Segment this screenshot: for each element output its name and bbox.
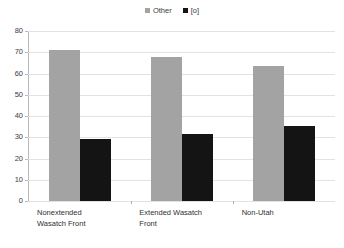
gridline <box>28 201 335 202</box>
x-axis-category-tick <box>233 201 234 204</box>
y-axis-tick-label: 10 <box>15 176 23 184</box>
y-axis-tick-label: 70 <box>15 48 23 56</box>
y-axis-tick-label: 0 <box>19 197 23 205</box>
bar-other[interactable] <box>253 66 284 201</box>
bar-schwa[interactable] <box>284 126 315 201</box>
y-axis-tick <box>25 180 28 181</box>
x-axis-category-label: Extended Wasatch Front <box>139 208 211 229</box>
y-axis-tick-label: 30 <box>15 133 23 141</box>
x-axis-category-label-cell: Nonextended Wasatch Front <box>29 208 131 229</box>
x-axis-category-label: Non-Utah <box>242 208 314 219</box>
bar-group <box>233 31 335 201</box>
x-axis-category-label-cell: Non-Utah <box>234 208 336 229</box>
y-axis-tick-label: 80 <box>15 27 23 35</box>
legend-swatch-other-icon <box>145 8 150 13</box>
y-axis-tick-label: 50 <box>15 91 23 99</box>
x-axis-category-label: Nonextended Wasatch Front <box>37 208 109 229</box>
y-axis-tick-label: 40 <box>15 112 23 120</box>
x-axis-labels: Nonextended Wasatch FrontExtended Wasatc… <box>29 208 336 229</box>
bar-chart: Other [o] 80706050403020100 Nonextended … <box>0 0 344 248</box>
bar-other[interactable] <box>49 50 80 201</box>
legend-item-schwa[interactable]: [o] <box>183 6 199 15</box>
y-axis-tick <box>25 52 28 53</box>
y-axis-tick <box>25 31 28 32</box>
bar-group <box>29 31 131 201</box>
y-axis-tick-label: 60 <box>15 70 23 78</box>
y-axis-tick-label: 20 <box>15 155 23 163</box>
legend-label-schwa: [o] <box>191 6 199 15</box>
x-axis-category-label-cell: Extended Wasatch Front <box>131 208 233 229</box>
y-axis-tick <box>25 201 28 202</box>
plot-area: 80706050403020100 <box>28 31 335 202</box>
y-axis-tick <box>25 116 28 117</box>
bar-group <box>131 31 233 201</box>
bar-other[interactable] <box>151 57 182 202</box>
legend-label-other: Other <box>153 6 172 15</box>
bar-groups <box>29 31 335 201</box>
legend-swatch-schwa-icon <box>183 8 188 13</box>
y-axis-tick <box>25 95 28 96</box>
chart-legend: Other [o] <box>0 4 344 16</box>
x-axis-category-tick <box>131 201 132 204</box>
legend-item-other[interactable]: Other <box>145 6 172 15</box>
bar-schwa[interactable] <box>80 139 111 201</box>
bar-schwa[interactable] <box>182 134 213 201</box>
y-axis-tick <box>25 137 28 138</box>
y-axis-tick <box>25 159 28 160</box>
y-axis-tick <box>25 74 28 75</box>
